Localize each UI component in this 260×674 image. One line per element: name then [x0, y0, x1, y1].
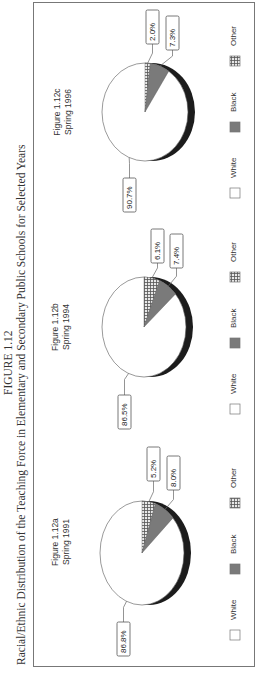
legend-swatch-other — [230, 56, 240, 66]
legend-label-other: Other — [229, 242, 238, 262]
panel-period-label: Spring 1996 — [63, 87, 74, 137]
panel-1994-heading: Figure 1.12b Spring 1994 — [50, 302, 72, 352]
legend-swatch-white — [230, 404, 240, 414]
percentage-label-other: 2.0% — [148, 23, 157, 41]
legend-label-black: Black — [229, 534, 238, 554]
panel-figure-label: Figure 1.12c — [52, 87, 63, 137]
legend-swatch-other — [230, 498, 240, 508]
panel-period-label: Spring 1994 — [61, 302, 72, 352]
pie-charts — [0, 0, 260, 674]
panel-figure-label: Figure 1.12b — [50, 302, 61, 352]
legend-swatch-white — [230, 630, 240, 640]
percentage-label-white: 86.8% — [119, 630, 128, 653]
legend-swatch-black — [230, 338, 240, 348]
legend-label-other: Other — [229, 26, 238, 46]
percentage-label-white: 90.7% — [125, 186, 134, 209]
percentage-label-black: 7.3% — [168, 29, 177, 47]
leader-line — [148, 44, 153, 63]
leader-line — [160, 50, 173, 66]
leader-line — [152, 263, 158, 278]
percentage-label-other: 6.1% — [153, 242, 162, 260]
legend-label-white: White — [229, 600, 238, 620]
panel-1991-heading: Figure 1.12a Spring 1991 — [50, 517, 72, 567]
leader-line — [124, 601, 127, 622]
legend-label-white: White — [229, 158, 238, 178]
percentage-label-black: 7.4% — [172, 247, 181, 265]
panel-figure-label: Figure 1.12a — [50, 517, 61, 567]
percentage-label-white: 86.5% — [120, 403, 129, 426]
percentage-label-other: 5.2% — [149, 460, 158, 478]
panel-period-label: Spring 1991 — [61, 517, 72, 567]
legend-swatch-white — [230, 188, 240, 198]
leader-line — [149, 481, 154, 502]
percentage-label-black: 8.0% — [169, 469, 178, 487]
panel-1996-heading: Figure 1.12c Spring 1996 — [52, 87, 74, 137]
legend-swatch-other — [230, 272, 240, 282]
legend-label-white: White — [229, 374, 238, 394]
legend-swatch-black — [230, 564, 240, 574]
leader-line — [125, 373, 129, 395]
legend-swatch-black — [230, 122, 240, 132]
legend-label-other: Other — [229, 468, 238, 488]
legend-label-black: Black — [229, 308, 238, 328]
legend-label-black: Black — [229, 92, 238, 112]
